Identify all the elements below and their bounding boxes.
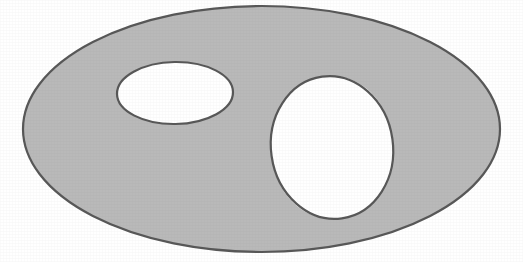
outer-region-fill [23, 6, 500, 252]
shaded-region-group [23, 6, 500, 252]
shape-diagram-svg [0, 0, 523, 262]
figure-canvas: Shaded ellipse with two elliptical holes… [0, 0, 523, 262]
hole-left-small [116, 61, 233, 125]
